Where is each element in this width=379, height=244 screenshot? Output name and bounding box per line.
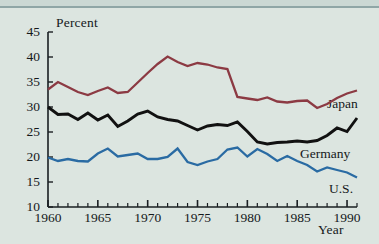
plot-area	[0, 0, 379, 244]
chart-figure: Percent Year Japan Germany U.S. 10152025…	[0, 0, 379, 244]
data-lines	[48, 57, 357, 178]
series-line-japan	[48, 57, 357, 109]
x-tick-marks	[48, 200, 357, 207]
series-line-germany	[48, 107, 357, 144]
axis-spines	[48, 32, 357, 207]
series-line-us	[48, 148, 357, 178]
